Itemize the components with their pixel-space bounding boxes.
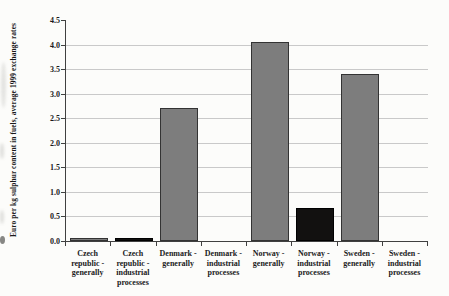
x-axis-tick — [382, 242, 383, 246]
y-axis-tick-label: 3.0 — [28, 90, 60, 99]
x-axis-tick — [246, 242, 247, 246]
x-axis-category-label: Denmark - generally — [156, 249, 201, 268]
y-axis-tick — [61, 167, 65, 168]
y-axis-title: Euro per kg sulphur content in fuels, av… — [9, 23, 18, 237]
y-axis-tick — [61, 94, 65, 95]
scan-artifact — [0, 236, 5, 244]
bar-chart: Euro per kg sulphur content in fuels, av… — [0, 0, 449, 296]
x-axis-category-label: Denmark - industrial processes — [201, 249, 246, 278]
y-axis-tick — [61, 143, 65, 144]
x-axis-category-label: Czech republic - generally — [65, 249, 110, 278]
y-axis-tick — [61, 69, 65, 70]
bar — [160, 108, 198, 241]
y-axis-tick-label: 3.5 — [28, 65, 60, 74]
gridline — [66, 69, 428, 70]
x-axis-category-label: Sweden - generally — [337, 249, 382, 268]
scan-artifact — [1, 62, 6, 108]
bar — [115, 238, 153, 241]
bar — [70, 238, 108, 241]
y-axis-tick-label: 2.0 — [28, 139, 60, 148]
x-axis-category-label: Sweden - industrial processes — [382, 249, 427, 278]
y-axis-tick-label: 0.5 — [28, 212, 60, 221]
x-axis-category-label: Norway - industrial processes — [291, 249, 336, 278]
x-axis-labels: Czech republic - generallyCzech republic… — [65, 249, 427, 287]
plot-area — [65, 20, 428, 242]
scan-artifact — [0, 143, 4, 159]
x-axis-tick — [156, 242, 157, 246]
x-axis-tick — [427, 242, 428, 246]
y-axis-tick-label: 2.5 — [28, 114, 60, 123]
bar — [296, 208, 334, 241]
y-axis-tick — [61, 192, 65, 193]
y-axis-tick — [61, 20, 65, 21]
y-axis-tick-label: 4.5 — [28, 16, 60, 25]
y-axis-tick-label: 4.0 — [28, 41, 60, 50]
x-axis-category-label: Czech republic - industrial processes — [110, 249, 155, 287]
x-axis-tick — [201, 242, 202, 246]
x-axis-tick — [337, 242, 338, 246]
x-axis-tick — [110, 242, 111, 246]
y-axis-tick-label: 1.0 — [28, 188, 60, 197]
y-axis-tick — [61, 45, 65, 46]
x-axis-category-label: Norway - generally — [246, 249, 291, 268]
bar — [341, 74, 379, 241]
y-axis-tick — [61, 118, 65, 119]
y-axis-tick — [61, 216, 65, 217]
x-axis-tick — [291, 242, 292, 246]
y-axis-tick-label: 1.5 — [28, 163, 60, 172]
x-axis-tick — [65, 242, 66, 246]
gridline — [66, 45, 428, 46]
bar — [251, 42, 289, 241]
y-axis-tick-label: 0.0 — [28, 237, 60, 246]
scan-artifact — [0, 210, 4, 224]
